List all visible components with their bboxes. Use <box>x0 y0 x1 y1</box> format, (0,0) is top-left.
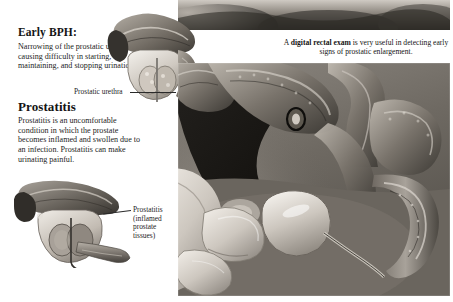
caption-bold-term: digital rectal exam <box>291 38 351 47</box>
prostatitis-heading: Prostatitis <box>18 99 76 115</box>
caption-prefix: A <box>284 38 291 47</box>
top-strip-art <box>178 0 450 30</box>
leader-line-prostatic-urethra <box>130 92 176 93</box>
illustration-page: Early BPH: Narrowing of the prostatic ur… <box>0 0 453 302</box>
main-illustration-panel <box>178 63 450 296</box>
callout-prostatic-urethra: Prostatic urethra <box>74 88 123 97</box>
main-panel-caption: A digital rectal exam is very useful in … <box>283 38 449 57</box>
callout-prostatitis-tissue: Prostatitis (inflamed prostate tissues) <box>133 206 179 240</box>
digital-rectal-exam-illustration <box>178 63 450 296</box>
prostatitis-inset-illustration <box>14 178 134 268</box>
prostatitis-body: Prostatitis is an uncomfortable conditio… <box>18 116 144 165</box>
main-illustration-top-strip <box>178 0 450 30</box>
